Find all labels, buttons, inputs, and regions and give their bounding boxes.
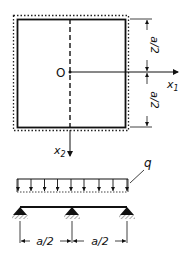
support-right bbox=[119, 207, 135, 219]
origin-label: O bbox=[56, 66, 65, 80]
distributed-load bbox=[17, 179, 128, 192]
x1-axis-label: x1 bbox=[166, 78, 179, 93]
load-leader-line bbox=[130, 170, 144, 183]
span-label-left: a/2 bbox=[36, 235, 53, 248]
x2-axis-label: x2 bbox=[53, 144, 66, 159]
support-middle bbox=[64, 207, 80, 219]
dimension-label-bottom: a/2 bbox=[148, 91, 161, 108]
load-label: q bbox=[144, 156, 152, 170]
span-label-right: a/2 bbox=[91, 235, 108, 248]
support-left bbox=[12, 207, 28, 219]
load-arrows bbox=[18, 179, 127, 191]
plate-square bbox=[18, 20, 126, 128]
plate-diagram: x2 O x1 a/2 a/2 q bbox=[0, 0, 189, 258]
dimension-label-top: a/2 bbox=[148, 36, 161, 53]
